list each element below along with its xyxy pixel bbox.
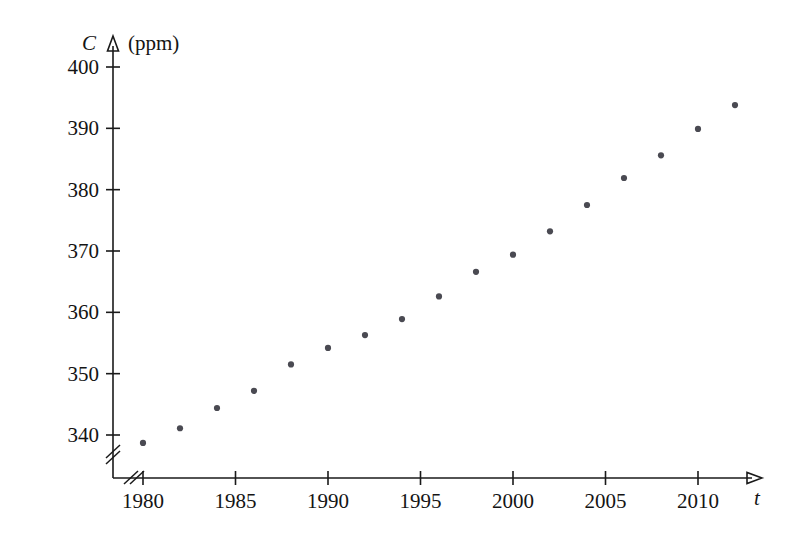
y-tick-label-360: 360 (68, 300, 100, 324)
y-axis-tick-labels: 340350360370380390400 (68, 55, 100, 447)
data-point-1998 (473, 269, 479, 275)
carbon-dioxide-scatter-chart: 340350360370380390400 198019851990199520… (0, 0, 805, 535)
y-axis-unit-label: (ppm) (128, 31, 179, 55)
data-point-1988 (288, 361, 294, 367)
data-point-2010 (695, 126, 701, 132)
y-axis-label: C (82, 31, 97, 55)
data-point-1984 (214, 405, 220, 411)
x-tick-label-1985: 1985 (215, 489, 257, 513)
x-tick-label-2010: 2010 (677, 489, 719, 513)
data-point-2008 (658, 152, 664, 158)
data-point-2004 (584, 202, 590, 208)
y-tick-label-390: 390 (68, 116, 100, 140)
y-tick-label-380: 380 (68, 178, 100, 202)
x-tick-label-1990: 1990 (307, 489, 349, 513)
data-point-1996 (436, 293, 442, 299)
data-point-1994 (399, 316, 405, 322)
x-tick-label-1995: 1995 (400, 489, 442, 513)
data-point-1986 (251, 388, 257, 394)
x-tick-label-1980: 1980 (122, 489, 164, 513)
data-point-1990 (325, 345, 331, 351)
data-point-2000 (510, 252, 516, 258)
x-tick-label-2000: 2000 (492, 489, 534, 513)
y-tick-label-370: 370 (68, 239, 100, 263)
x-axis-tick-labels: 1980198519901995200020052010 (122, 489, 719, 513)
data-point-2002 (547, 228, 553, 234)
data-point-1980 (140, 440, 146, 446)
y-tick-label-340: 340 (68, 423, 100, 447)
data-point-1992 (362, 332, 368, 338)
y-tick-label-350: 350 (68, 362, 100, 386)
x-axis-label: t (754, 486, 761, 510)
axes-group (108, 36, 763, 484)
data-point-2012 (732, 102, 738, 108)
x-tick-label-2005: 2005 (585, 489, 627, 513)
data-point-series (140, 102, 738, 446)
y-tick-label-400: 400 (68, 55, 100, 79)
data-point-1982 (177, 425, 183, 431)
data-point-2006 (621, 175, 627, 181)
chart-canvas: 340350360370380390400 198019851990199520… (0, 0, 805, 535)
